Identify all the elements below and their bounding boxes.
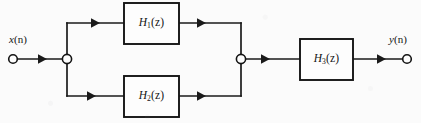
arrow-into-h1-icon xyxy=(91,18,100,28)
output-label: y(n) xyxy=(389,33,407,45)
arrow-out-h1-icon xyxy=(197,18,206,28)
block-h3-label-main: H xyxy=(314,52,322,64)
arrow-input-icon xyxy=(38,54,47,64)
block-h3-label-arg: (z) xyxy=(326,52,339,64)
arrow-out-h2-icon xyxy=(197,91,206,101)
output-terminal xyxy=(403,55,412,64)
arrow-into-h3-icon xyxy=(261,54,270,64)
block-h1-label-main: H xyxy=(139,16,147,28)
block-h2-label-sub: 2 xyxy=(147,94,151,103)
input-label: x(n) xyxy=(9,33,27,45)
block-h2-label-main: H xyxy=(139,89,147,101)
block-h3-label: H3(z) xyxy=(300,52,353,64)
block-h1-label: H1(z) xyxy=(124,16,179,28)
block-h2-label: H2(z) xyxy=(124,89,179,101)
block-diagram-figure: H1(z) H2(z) H3(z) x(n) y(n) xyxy=(0,0,421,123)
split-node xyxy=(62,54,71,63)
block-h1-label-arg: (z) xyxy=(151,16,164,28)
arrow-into-h2-icon xyxy=(87,91,96,101)
sum-node xyxy=(236,54,245,63)
block-h1-label-sub: 1 xyxy=(147,21,151,30)
block-h3-label-sub: 3 xyxy=(322,57,326,66)
input-terminal xyxy=(9,55,18,64)
output-label-arg: (n) xyxy=(394,33,407,45)
diagram-canvas xyxy=(0,0,421,123)
arrow-output-icon xyxy=(377,54,386,64)
block-h2-label-arg: (z) xyxy=(151,89,164,101)
input-label-arg: (n) xyxy=(14,33,27,45)
